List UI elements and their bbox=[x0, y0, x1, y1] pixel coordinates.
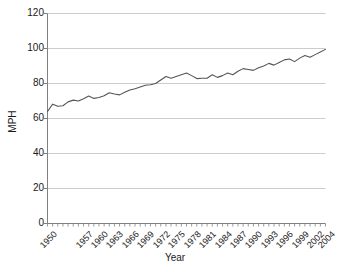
y-tick-label: 80 bbox=[10, 77, 44, 88]
y-tick-label: 60 bbox=[10, 112, 44, 123]
gridlines bbox=[48, 14, 326, 189]
y-tick-label: 0 bbox=[10, 217, 44, 228]
data-series-line bbox=[48, 49, 326, 111]
y-tick-label: 120 bbox=[10, 7, 44, 18]
y-tick-label: 20 bbox=[10, 182, 44, 193]
y-tick-label: 100 bbox=[10, 42, 44, 53]
y-tick-label: 40 bbox=[10, 147, 44, 158]
y-tick-marks bbox=[44, 14, 48, 224]
chart-figure: MPH Year 020406080100120 195019571960196… bbox=[0, 0, 350, 272]
